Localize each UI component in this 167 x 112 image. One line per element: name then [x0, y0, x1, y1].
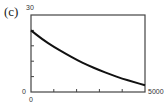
- y-min-label: 0: [22, 88, 26, 95]
- data-curve: [31, 30, 145, 85]
- x-min-label: 0: [29, 96, 33, 103]
- x-max-label: 5000: [148, 88, 164, 95]
- decay-curve-chart: [0, 0, 167, 112]
- y-max-label: 30: [26, 4, 34, 11]
